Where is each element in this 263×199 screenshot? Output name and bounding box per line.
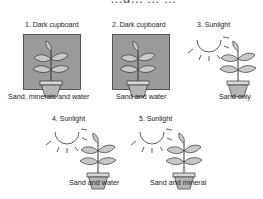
setup-3-label: 3. Sunlight xyxy=(197,21,230,28)
setup-2-medium: Sand and water xyxy=(116,92,166,101)
setup-5-label: 5. Sunlight xyxy=(139,115,172,122)
setup-5-medium: Sand and mineral xyxy=(150,178,206,187)
potted-plant-icon xyxy=(31,37,71,97)
potted-plant-icon xyxy=(118,37,158,97)
setup-4-label: 4. Sunlight xyxy=(52,115,85,122)
setup-2-label: 2. Dark cupboard xyxy=(112,21,166,28)
setup-1-label: 1. Dark cupboard xyxy=(25,21,79,28)
setup-1-medium: Sand, minerals and water xyxy=(8,92,90,101)
diagram-title-cropped: …g… … … xyxy=(110,0,260,3)
potted-plant-icon xyxy=(218,37,258,97)
setup-3-medium: Sand only xyxy=(219,92,251,101)
setup-4-medium: Sand and water xyxy=(69,178,119,187)
